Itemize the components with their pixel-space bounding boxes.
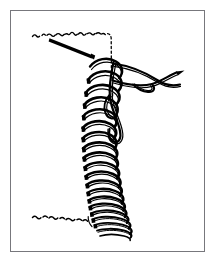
crossed-tails-icon [113, 64, 185, 93]
rope-edge-top-icon [33, 32, 106, 37]
rope-body-icon [88, 217, 92, 227]
rope-edge-bottom-icon [33, 216, 88, 221]
knot-illustration [0, 0, 216, 264]
tucked-end-icon [49, 38, 96, 59]
